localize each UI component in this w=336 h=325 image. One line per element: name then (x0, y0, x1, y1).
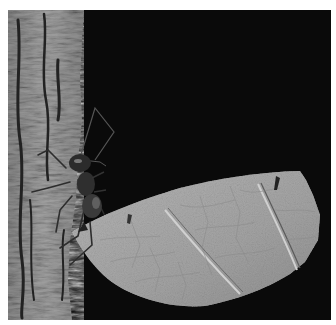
photograph (8, 10, 331, 320)
ant-gaster-highlight (92, 197, 100, 209)
ant-thorax (77, 172, 95, 196)
ant-head-highlight (74, 159, 82, 163)
ant-head (69, 154, 91, 172)
